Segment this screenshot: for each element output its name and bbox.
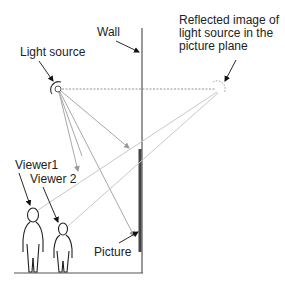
reflected-source-icon — [213, 81, 225, 93]
light-rays — [59, 91, 134, 236]
sight-lines — [38, 92, 218, 226]
viewer2-figure — [54, 223, 72, 272]
picture-label: Picture — [94, 245, 131, 259]
viewer2-label: Viewer 2 — [30, 172, 76, 186]
label-arrows — [19, 41, 236, 243]
light-source-icon — [51, 82, 61, 94]
light-source-label: Light source — [20, 45, 85, 59]
reflected-image-label: Reflected image of light source in the p… — [179, 14, 279, 53]
wall-label: Wall — [97, 25, 120, 39]
viewer1-figure — [23, 208, 43, 272]
viewer1-label: Viewer1 — [15, 158, 58, 172]
